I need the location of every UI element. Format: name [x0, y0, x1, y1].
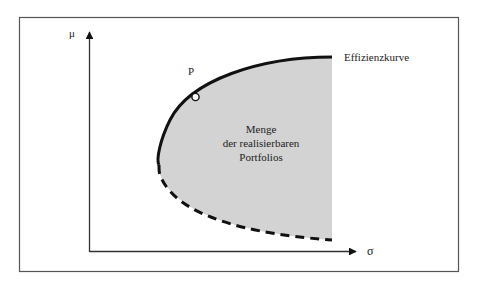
efficient-frontier-diagram: μ σ P Effizienzkurve Menge der realisier… [0, 0, 478, 288]
point-p-label: P [188, 65, 194, 77]
region-label-line-3: Portfolios [239, 151, 282, 163]
region-label-line-1: Menge [246, 123, 277, 135]
portfolio-point-p [192, 93, 199, 100]
frontier-label: Effizienzkurve [344, 51, 409, 63]
region-label-line-2: der realisierbaren [223, 137, 300, 149]
x-axis-label: σ [367, 244, 374, 258]
y-axis-label: μ [69, 27, 75, 39]
